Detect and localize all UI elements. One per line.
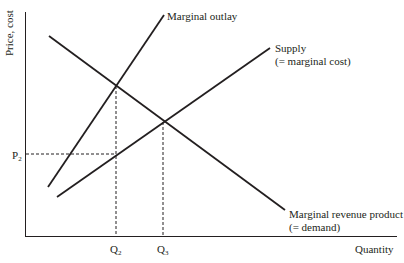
q3-marker: Q3 (157, 243, 168, 259)
y-axis-label: Price, cost (3, 10, 15, 56)
monopsony-diagram (0, 0, 404, 263)
supply-label: Supply (275, 42, 306, 54)
demand-label-line2: (= demand) (289, 221, 340, 233)
supply-label-line2: (= marginal cost) (275, 55, 351, 67)
q2-marker: Q2 (110, 243, 121, 259)
q2-base: Q (110, 243, 118, 255)
q3-base: Q (157, 243, 165, 255)
p2-sub: 2 (18, 155, 22, 163)
demand-label: Marginal revenue product (289, 208, 403, 220)
marginal-outlay-curve (48, 15, 164, 187)
p2-marker: P2 (12, 149, 22, 165)
q2-sub: 2 (118, 249, 122, 257)
marginal-outlay-label: Marginal outlay (167, 10, 237, 22)
q3-sub: 3 (165, 249, 169, 257)
x-axis-label: Quantity (355, 243, 394, 255)
